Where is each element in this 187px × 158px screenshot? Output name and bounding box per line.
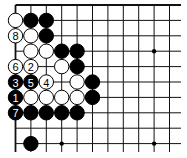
white-stone[interactable] [55,59,69,73]
black-stone-icon [85,75,99,89]
black-stone[interactable] [24,106,38,120]
black-stone[interactable]: 1 [8,90,22,104]
black-stone-icon [85,90,99,104]
black-stone-icon [39,29,53,43]
white-stone[interactable] [24,29,38,43]
move-number-label: 4 [43,77,49,89]
black-stone-icon [70,106,84,120]
move-number-label: 2 [28,61,34,73]
black-stone[interactable]: 5 [24,75,38,89]
white-stone[interactable] [39,44,53,58]
black-stone[interactable]: 3 [8,75,22,89]
white-stone[interactable] [24,90,38,104]
white-stone-icon [70,75,84,89]
black-stone[interactable] [70,44,84,58]
white-stone[interactable] [24,44,38,58]
black-stone-icon [55,106,69,120]
white-stone[interactable] [70,75,84,89]
star-point-icon [152,49,156,53]
black-stone-icon [24,136,38,150]
black-stone[interactable]: 7 [8,106,22,120]
white-stone-icon [39,44,53,58]
black-stone[interactable] [85,75,99,89]
black-stone[interactable] [70,106,84,120]
move-number-label: 3 [12,77,18,89]
move-number-label: 8 [12,30,18,42]
black-stone[interactable] [39,106,53,120]
star-point-icon [152,141,156,145]
white-stone-icon [24,29,38,43]
move-number-label: 7 [12,107,18,119]
white-stone-icon [55,59,69,73]
black-stone-icon [70,44,84,58]
black-stone[interactable] [55,44,69,58]
white-stone-icon [70,90,84,104]
move-number-label: 5 [28,77,34,89]
white-stone[interactable] [39,90,53,104]
black-stone[interactable] [24,13,38,27]
white-stone[interactable]: 8 [8,29,22,43]
white-stone-icon [24,44,38,58]
white-stone[interactable] [70,90,84,104]
black-stone-icon [24,13,38,27]
black-stone-icon [70,59,84,73]
black-stone-icon [55,44,69,58]
white-stone[interactable] [8,13,22,27]
white-stone[interactable] [55,90,69,104]
black-stone-icon [39,106,53,120]
white-stone-icon [39,90,53,104]
black-stone-icon [24,106,38,120]
move-number-label: 1 [12,92,18,104]
black-stone[interactable] [85,90,99,104]
black-stone[interactable] [55,106,69,120]
white-stone-icon [24,90,38,104]
move-number-label: 6 [12,61,18,73]
black-stone[interactable] [39,13,53,27]
white-stone[interactable]: 6 [8,59,22,73]
black-stone-icon [39,13,53,27]
star-point-icon [60,141,64,145]
white-stone-icon [8,13,22,27]
white-stone[interactable]: 4 [39,75,53,89]
black-stone[interactable] [24,136,38,150]
white-stone[interactable]: 2 [24,59,38,73]
black-stone[interactable] [70,59,84,73]
black-stone[interactable] [39,29,53,43]
go-board[interactable]: 86235417 [0,0,187,158]
white-stone-icon [55,90,69,104]
